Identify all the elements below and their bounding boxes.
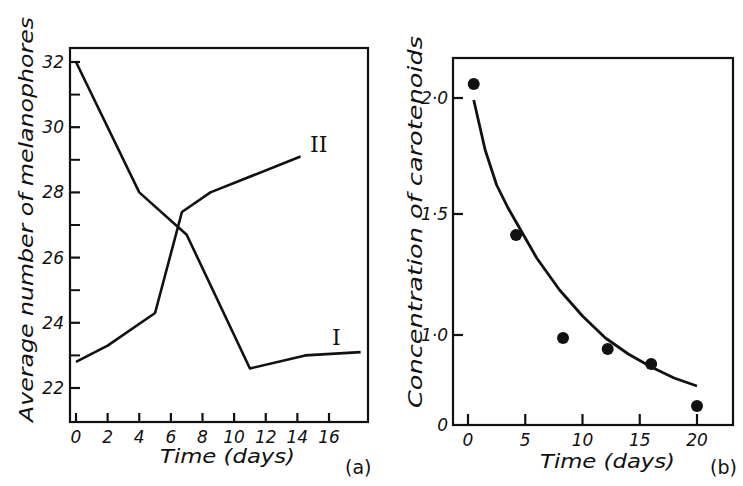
y-tick-label: 30 <box>42 117 64 137</box>
x-tick-label: 6 <box>165 427 176 447</box>
y-tick-label: 22 <box>42 378 64 398</box>
x-tick-label: 2 <box>102 427 113 447</box>
x-tick-label: 14 <box>287 427 309 447</box>
x-tick-label: 20 <box>686 430 708 450</box>
panel-a-x-axis-label: Time (days) <box>160 445 295 467</box>
panel-b-x-axis-label: Time (days) <box>540 450 675 472</box>
x-tick-label: 16 <box>318 427 340 447</box>
data-point <box>557 332 569 344</box>
x-tick-label: 5 <box>520 430 531 450</box>
y-tick-label: 0 <box>437 415 448 435</box>
panel-a-y-axis-label: Average number of melanophores <box>15 17 37 425</box>
data-point <box>691 400 703 412</box>
y-tick-label: 28 <box>42 182 64 202</box>
curve-label-I: I <box>332 325 341 350</box>
panel-a-x-ticks: 0246810121416 <box>71 413 340 447</box>
x-tick-label: 4 <box>134 427 145 447</box>
panel-a-series <box>76 62 361 368</box>
x-tick-label: 0 <box>71 427 82 447</box>
panel-a-y-ticks: 222426283032 <box>42 52 80 398</box>
curve-label-II: II <box>310 132 327 157</box>
x-tick-label: 0 <box>463 430 474 450</box>
y-tick-label: 24 <box>42 313 64 333</box>
data-point <box>468 78 480 90</box>
x-tick-label: 10 <box>223 427 245 447</box>
panel-a-frame <box>70 48 368 422</box>
x-tick-label: 10 <box>572 430 594 450</box>
panel-b-x-ticks: 05101520 <box>463 414 708 450</box>
panel-b-label: (b) <box>710 456 737 478</box>
series-line-II <box>76 157 301 362</box>
y-tick-label: 32 <box>42 52 64 72</box>
x-tick-label: 12 <box>255 427 277 447</box>
panel-b-chart: 2·01·51·00 05101520 Concentration of car… <box>404 36 737 478</box>
data-point <box>602 343 614 355</box>
panel-b-y-ticks: 2·01·51·00 <box>421 88 463 435</box>
data-point <box>645 358 657 370</box>
panel-a-chart: 222426283032 0246810121416 II I Average … <box>15 17 371 478</box>
panel-a-label: (a) <box>345 456 371 478</box>
x-tick-label: 8 <box>197 427 208 447</box>
data-point <box>510 229 522 241</box>
fitted-curve <box>474 100 697 386</box>
series-line-I <box>76 62 361 368</box>
x-tick-label: 15 <box>629 430 651 450</box>
panel-b-y-axis-label: Concentration of carotenoids <box>404 36 426 408</box>
panel-b-frame <box>453 58 733 425</box>
panel-b-series <box>468 78 703 412</box>
y-tick-label: 26 <box>42 248 64 268</box>
figure: 222426283032 0246810121416 II I Average … <box>0 0 743 486</box>
